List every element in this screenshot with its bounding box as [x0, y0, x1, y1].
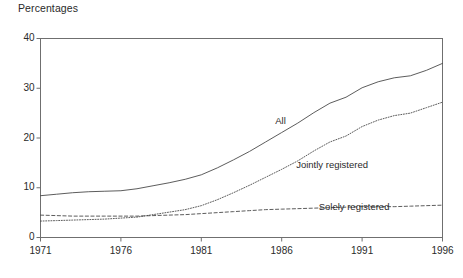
x-tick-marks: [41, 238, 443, 242]
y-tick-label: 10: [13, 181, 35, 192]
x-tick-label: 1976: [101, 245, 141, 256]
x-tick-label: 1971: [21, 245, 61, 256]
plot-canvas: [0, 0, 463, 278]
y-tick-label: 20: [13, 132, 35, 143]
x-tick-label: 1981: [181, 245, 221, 256]
y-tick-label: 0: [13, 231, 35, 242]
series-label: All: [275, 115, 286, 126]
series-line: [41, 63, 443, 195]
series-label: Jointly registered: [296, 159, 368, 170]
x-tick-label: 1986: [262, 245, 302, 256]
y-tick-label: 40: [13, 32, 35, 43]
y-tick-marks: [37, 39, 41, 238]
x-tick-label: 1996: [423, 245, 463, 256]
y-tick-label: 30: [13, 82, 35, 93]
x-tick-label: 1991: [342, 245, 382, 256]
line-chart: Percentages 010203040 197119761981198619…: [0, 0, 463, 278]
series-lines: [41, 63, 443, 221]
series-label: Solely registered: [319, 201, 390, 212]
